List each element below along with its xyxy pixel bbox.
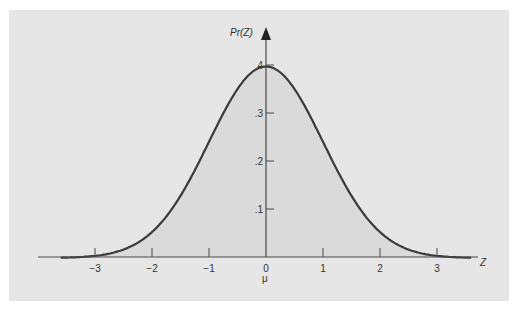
y-tick-label: .2 bbox=[255, 156, 264, 167]
y-axis-label: Pr(Z) bbox=[230, 27, 253, 38]
y-axis-arrow-icon bbox=[261, 27, 271, 40]
y-tick-label: .1 bbox=[255, 204, 264, 215]
normal-distribution-chart: −3−2−10123 .1.2.3.4 Pr(Z) Z μ bbox=[0, 0, 518, 312]
mu-label: μ bbox=[262, 273, 268, 284]
x-axis-label: Z bbox=[479, 257, 487, 268]
x-tick-label: 1 bbox=[320, 263, 326, 274]
x-tick-label: −2 bbox=[146, 263, 158, 274]
x-tick-label: −3 bbox=[89, 263, 101, 274]
y-tick-label: .4 bbox=[255, 60, 264, 71]
x-tick-label: −1 bbox=[203, 263, 215, 274]
y-tick-label: .3 bbox=[255, 108, 264, 119]
x-tick-label: 2 bbox=[377, 263, 383, 274]
x-tick-label: 3 bbox=[434, 263, 440, 274]
